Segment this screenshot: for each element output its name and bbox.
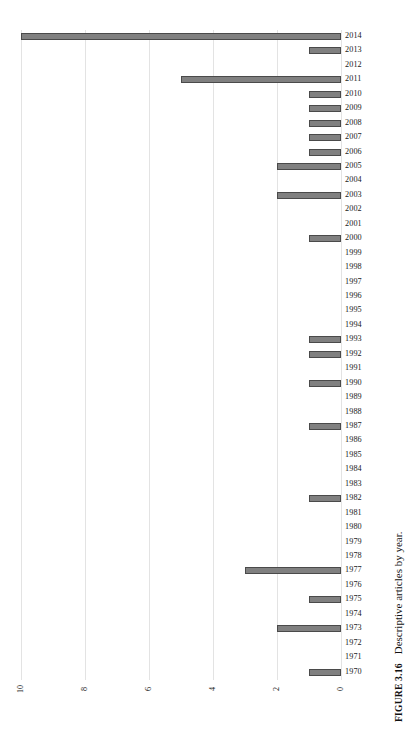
bar-row: 1996 [0,290,352,304]
xtick-label-8: 8 [80,679,90,699]
bar-2008 [309,120,341,127]
bar-row: 1980 [0,521,352,535]
bar-row: 1986 [0,434,352,448]
xtick-label-2: 2 [272,679,282,699]
bar-row: 1981 [0,507,352,521]
bar-row: 1999 [0,247,352,261]
bar-2014 [21,33,341,40]
bar-2009 [309,105,341,112]
xtick-label-4: 4 [208,679,218,699]
bar-1990 [309,380,341,387]
bar-row: 1987 [0,420,352,434]
bar-2007 [309,134,341,141]
bar-1977 [245,567,341,574]
bar-row: 2010 [0,88,352,102]
bar-row: 1989 [0,391,352,405]
bar-2013 [309,47,341,54]
bar-row: 1978 [0,550,352,564]
bar-row: 1977 [0,564,352,578]
bar-row: 2006 [0,146,352,160]
bar-row: 1998 [0,261,352,275]
xtick-label-10: 10 [16,679,26,699]
chart-plot-area: 2014201320122011201020092008200720062005… [0,30,352,680]
bar-row: 2004 [0,174,352,188]
bar-row: 1972 [0,637,352,651]
figure-caption-text: Descriptive articles by year. [392,532,404,655]
bar-2000 [309,235,341,242]
bar-row: 1985 [0,449,352,463]
bar-row: 2009 [0,102,352,116]
bar-2003 [277,192,341,199]
bar-row: 1974 [0,608,352,622]
bar-row: 1970 [0,666,352,680]
x-axis: 1086420 [0,680,352,720]
xtick-label-6: 6 [144,679,154,699]
figure-caption-inner: FIGURE 3.16Descriptive articles by year. [392,532,405,723]
bar-row: 2014 [0,30,352,44]
bar-row: 1984 [0,463,352,477]
bar-row: 1992 [0,348,352,362]
bar-2010 [309,91,341,98]
bar-row: 2013 [0,44,352,58]
bar-1992 [309,351,341,358]
bar-row: 1991 [0,362,352,376]
bar-2011 [181,76,341,83]
bar-row: 1983 [0,478,352,492]
bar-row: 1982 [0,492,352,506]
figure-caption-label: FIGURE 3.16 [393,663,404,722]
bar-row: 2000 [0,232,352,246]
bar-row: 1997 [0,276,352,290]
bar-row: 2011 [0,73,352,87]
bar-row: 1976 [0,579,352,593]
bar-row: 1994 [0,319,352,333]
bar-row: 2007 [0,131,352,145]
bar-row: 1975 [0,593,352,607]
bar-row: 1995 [0,304,352,318]
bar-row: 1990 [0,377,352,391]
xtick-label-0: 0 [336,679,346,699]
bar-row: 2005 [0,160,352,174]
figure-caption: FIGURE 3.16Descriptive articles by year. [358,0,403,730]
bar-1987 [309,423,341,430]
bar-row: 2008 [0,117,352,131]
bar-row: 1988 [0,406,352,420]
bar-1975 [309,596,341,603]
bar-row: 2001 [0,218,352,232]
bar-1993 [309,336,341,343]
bar-1982 [309,495,341,502]
bar-row: 1979 [0,536,352,550]
bar-1973 [277,625,341,632]
bar-row: 2003 [0,189,352,203]
bar-2006 [309,149,341,156]
bar-row: 1993 [0,333,352,347]
bar-row: 1971 [0,651,352,665]
bar-row: 1973 [0,622,352,636]
bar-1970 [309,669,341,676]
bar-2005 [277,163,341,170]
bar-row: 2002 [0,203,352,217]
bar-row: 2012 [0,59,352,73]
